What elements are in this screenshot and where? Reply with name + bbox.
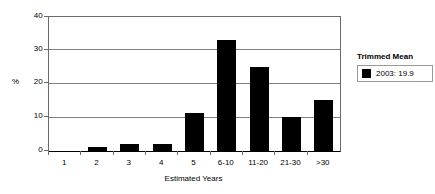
bar-21-30 [282,117,301,151]
x-tick-slot [177,151,209,155]
y-tick-label-0: 0 [26,146,43,154]
bar-slot [243,17,275,151]
bar-slot [49,17,81,151]
bar-chart: 40 30 20 10 0 % [0,0,435,194]
bar-slot [178,17,210,151]
bar-slot [114,17,146,151]
x-tick-slot [48,151,80,155]
x-tick-slot [210,151,242,155]
bar-slot [81,17,113,151]
x-tick-mark [307,151,308,155]
y-tick-label-30: 30 [26,45,43,53]
y-axis-title: % [12,78,19,86]
x-axis-ticks [48,151,339,155]
x-label-1: 1 [48,158,80,167]
bar-slot [211,17,243,151]
x-tick-slot [80,151,112,155]
x-tick-mark [210,151,211,155]
legend-swatch-icon [362,69,371,78]
x-label-11-20: 11-20 [242,158,274,167]
x-tick-mark [177,151,178,155]
x-tick-mark [48,151,49,155]
y-tick-label-20: 20 [26,78,43,86]
y-tick-label-10: 10 [26,112,43,120]
x-label-4: 4 [145,158,177,167]
legend-box: 2003: 19.9 [357,65,433,82]
x-tick-mark [113,151,114,155]
legend: Trimmed Mean 2003: 19.9 [357,52,433,82]
legend-title: Trimmed Mean [357,52,433,62]
x-tick-slot [307,151,339,155]
x-tick-slot [113,151,145,155]
bar-6-10 [217,40,236,151]
x-label-6-10: 6-10 [210,158,242,167]
plot-area [48,16,341,152]
bar-5 [185,113,204,151]
bar-slot [308,17,340,151]
x-label-3: 3 [113,158,145,167]
bar-4 [153,144,172,151]
bar-slot [146,17,178,151]
x-tick-slot [274,151,306,155]
x-axis-title: Estimated Years [48,174,339,183]
y-tick-20: 20 [26,78,43,86]
x-tick-slot [145,151,177,155]
bars-layer [49,17,340,151]
x-tick-mark [80,151,81,155]
x-label-gt30: >30 [307,158,339,167]
x-label-2: 2 [80,158,112,167]
x-label-5: 5 [177,158,209,167]
x-tick-slot [242,151,274,155]
x-tick-mark [274,151,275,155]
x-tick-mark [145,151,146,155]
x-label-21-30: 21-30 [274,158,306,167]
legend-entry-label: 2003: 19.9 [376,69,414,78]
x-axis-labels: 1 2 3 4 5 6-10 11-20 21-30 >30 [48,158,339,167]
y-tick-10: 10 [26,112,43,120]
y-tick-40: 40 [26,12,43,20]
bar-gt30 [314,100,333,151]
bar-3 [120,144,139,151]
bar-slot [275,17,307,151]
y-tick-0: 0 [26,146,43,154]
bar-11-20 [250,67,269,151]
y-tick-30: 30 [26,45,43,53]
y-tick-label-40: 40 [26,12,43,20]
x-tick-mark [242,151,243,155]
